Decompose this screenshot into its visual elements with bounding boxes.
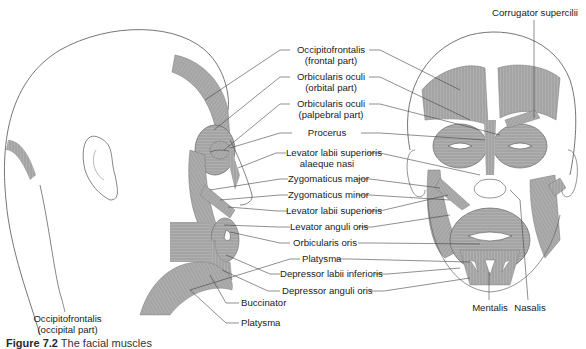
label-text: Depressor labii inferioris: [280, 268, 383, 279]
label-text: Buccinator: [241, 297, 286, 308]
label-levator-labii-superioris: Levator labii superioris: [286, 205, 368, 216]
caption-prefix: Figure 7.2: [6, 337, 58, 349]
label-text: Corrugator supercilii: [492, 7, 578, 18]
label-orbicularis-oris: Orbicularis oris: [290, 237, 360, 248]
label-text: Levator anguli oris: [290, 221, 368, 232]
label-line-2: (orbital part): [292, 82, 370, 93]
label-line-2: (occipital part): [30, 324, 105, 335]
label-text: Nasalis: [514, 302, 545, 313]
label-platysma-center: Platysma: [302, 253, 338, 264]
label-text: Platysma: [241, 317, 280, 328]
label-occipitofrontalis-frontal: Occipitofrontalis (frontal part): [292, 44, 370, 66]
label-line-2: (palpebral part): [292, 109, 370, 120]
label-text: Procerus: [308, 127, 346, 138]
label-zygomaticus-major: Zygomaticus major: [288, 173, 358, 184]
label-occipitofrontalis-occipital: Occipitofrontalis (occipital part): [30, 313, 105, 335]
label-orbicularis-oculi-palpebral: Orbicularis oculi (palpebral part): [292, 98, 370, 120]
label-mentalis: Mentalis: [472, 302, 508, 313]
label-text: Mentalis: [472, 302, 508, 313]
label-line-1: Orbicularis oculi: [292, 71, 370, 82]
label-levator-labii-alaeque-nasi: Levator labii superioris alaeque nasi: [286, 147, 368, 169]
label-platysma-side: Platysma: [241, 317, 281, 328]
label-orbicularis-oculi-orbital: Orbicularis oculi (orbital part): [292, 71, 370, 93]
label-levator-anguli-oris: Levator anguli oris: [290, 221, 360, 232]
label-line-1: Occipitofrontalis: [30, 313, 105, 324]
label-depressor-anguli-oris: Depressor anguli oris: [282, 285, 370, 296]
label-nasalis: Nasalis: [514, 302, 546, 313]
label-text: Levator labii superioris: [286, 205, 382, 216]
label-line-1: Occipitofrontalis: [292, 44, 370, 55]
label-text: Orbicularis oris: [293, 237, 357, 248]
label-line-2: (frontal part): [292, 55, 370, 66]
label-zygomaticus-minor: Zygomaticus minor: [288, 189, 358, 200]
label-text: Zygomaticus minor: [288, 189, 369, 200]
label-buccinator: Buccinator: [241, 297, 281, 308]
label-line-1: Orbicularis oculi: [292, 98, 370, 109]
side-view-head: [4, 30, 252, 335]
caption-text: The facial muscles: [61, 337, 152, 349]
label-line-1: Levator labii superioris: [286, 147, 368, 158]
label-line-2: alaeque nasi: [286, 158, 368, 169]
front-view-face: [407, 32, 577, 292]
label-depressor-labii-inferioris: Depressor labii inferioris: [280, 268, 376, 279]
label-text: Zygomaticus major: [288, 173, 369, 184]
label-corrugator-supercilii: Corrugator supercilii: [490, 7, 580, 18]
label-text: Platysma: [302, 253, 341, 264]
figure-caption: Figure 7.2 The facial muscles: [6, 337, 152, 349]
label-procerus: Procerus: [292, 127, 362, 138]
label-text: Depressor anguli oris: [282, 285, 373, 296]
